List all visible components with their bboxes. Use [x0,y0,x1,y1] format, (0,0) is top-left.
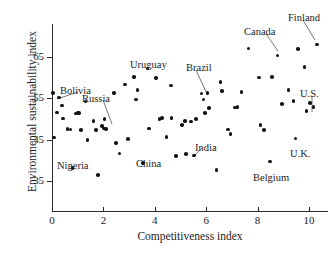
annotation-label-u-s: U.S. [300,88,319,99]
annotation-label-canada: Canada [244,26,276,37]
annotation-labels-layer: BoliviaRussiaNigeriaUruguayChinaBrazilIn… [0,0,334,257]
annotation-label-u-k: U.K. [290,148,310,159]
annotation-label-china: China [136,158,161,169]
scatter-plot-figure: 35455565 0246810 Competitiveness index E… [0,0,334,257]
annotation-label-finland: Finland [288,12,320,23]
annotation-label-uruguay: Uruguay [130,59,167,70]
annotation-label-india: India [195,142,217,153]
annotation-label-russia: Russia [82,93,110,104]
annotation-label-belgium: Belgium [253,172,289,183]
annotation-label-brazil: Brazil [186,62,212,73]
annotation-label-nigeria: Nigeria [57,160,89,171]
